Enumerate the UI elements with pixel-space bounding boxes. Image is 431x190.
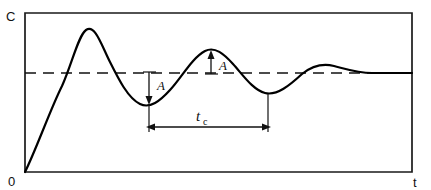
y-axis-label: C — [6, 9, 15, 24]
second-amplitude-label: A — [218, 58, 227, 73]
period-left-arrowhead — [146, 124, 155, 131]
period-right-arrowhead — [262, 124, 271, 131]
first-amplitude-label: A — [156, 78, 165, 93]
x-axis-label: t — [413, 175, 417, 190]
second-amplitude-arrowhead — [208, 50, 215, 59]
decay-ratio-figure: A A t c C 0 — [0, 0, 431, 190]
period-label: t — [196, 108, 201, 124]
response-curve-plot: A A t c C 0 — [0, 0, 431, 190]
period-subscript: c — [203, 116, 208, 127]
plot-frame — [25, 13, 412, 172]
cycle-period-annotation: t c — [146, 94, 271, 132]
origin-label: 0 — [8, 174, 15, 189]
first-amplitude-annotation: A — [143, 72, 165, 105]
process-response-curve — [25, 29, 412, 172]
